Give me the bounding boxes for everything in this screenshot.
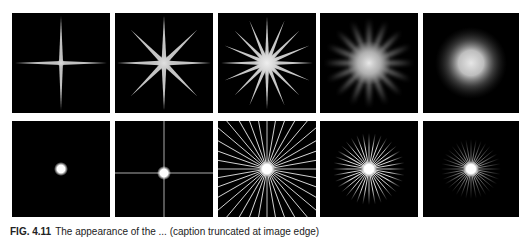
radial-spokes-long-icon	[218, 121, 316, 217]
panel-radial-spokes-faded	[423, 121, 519, 217]
star-4-icon	[12, 13, 110, 113]
panel-radial-spokes-long	[218, 121, 316, 217]
soft-glow-icon	[423, 13, 519, 113]
star-8-icon	[115, 13, 213, 113]
panel-point-with-cross	[115, 121, 213, 217]
panel-point-source	[12, 121, 110, 217]
point-cross-icon	[115, 121, 213, 217]
figure-caption: FIG. 4.11The appearance of the ... (capt…	[10, 226, 319, 237]
panel-8-point-star	[115, 13, 213, 113]
panel-soft-glow	[423, 13, 519, 113]
radial-spokes-medium-icon	[320, 121, 418, 217]
point-source-icon	[12, 121, 110, 217]
blurred-star-icon	[320, 13, 418, 113]
figure-caption-text: The appearance of the ... (caption trunc…	[55, 226, 319, 237]
star-16-icon	[218, 13, 316, 113]
panel-4-point-star	[12, 13, 110, 113]
panel-16-point-star	[218, 13, 316, 113]
panel-blurred-star	[320, 13, 418, 113]
figure-caption-label: FIG. 4.11	[10, 226, 51, 237]
panel-radial-spokes-medium	[320, 121, 418, 217]
radial-spokes-faded-icon	[423, 121, 519, 217]
